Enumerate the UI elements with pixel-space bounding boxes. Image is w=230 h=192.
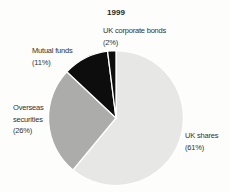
label-uk-corporate-bonds: UK corporate bonds (2%) xyxy=(103,25,166,48)
label-line: UK shares xyxy=(185,130,218,142)
label-line: Overseas xyxy=(13,102,44,114)
label-line: (2%) xyxy=(103,37,166,49)
label-line: (26%) xyxy=(13,125,44,137)
label-line: (11%) xyxy=(32,57,73,69)
label-mutual-funds: Mutual funds (11%) xyxy=(32,45,73,68)
label-line: securities xyxy=(13,114,44,126)
label-line: (61%) xyxy=(185,142,218,154)
label-line: Mutual funds xyxy=(32,45,73,57)
pie-chart-figure: 1999 UK corporate bonds (2%) Mutual fund… xyxy=(0,0,230,192)
label-uk-shares: UK shares (61%) xyxy=(185,130,218,153)
label-overseas-securities: Overseas securities (26%) xyxy=(13,102,44,137)
label-line: UK corporate bonds xyxy=(103,25,166,37)
